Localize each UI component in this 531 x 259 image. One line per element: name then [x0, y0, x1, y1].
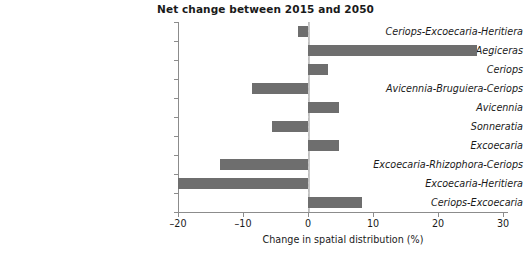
bar-row: Ceriops-Excoecaria	[0, 193, 531, 212]
y-tick	[174, 60, 179, 61]
bar-row: Excoecaria-Heritiera	[0, 174, 531, 193]
category-label: Sonneratia	[182, 117, 531, 136]
bar-row: Avicennia	[0, 98, 531, 117]
x-tick-label: 30	[483, 218, 523, 229]
bar-row: Ceriops	[0, 60, 531, 79]
x-tick-label: –10	[223, 218, 263, 229]
y-tick	[174, 155, 179, 156]
bar-row: Excoecaria	[0, 136, 531, 155]
x-axis-line	[178, 212, 508, 213]
y-tick	[174, 174, 179, 175]
bar-row: Phoenix-Xylocarpus-Aegiceras	[0, 41, 531, 60]
x-tick	[308, 212, 309, 217]
bar	[308, 140, 339, 151]
y-tick	[174, 98, 179, 99]
bar	[252, 83, 308, 94]
x-tick	[438, 212, 439, 217]
y-tick	[174, 193, 179, 194]
x-tick-label: 10	[353, 218, 393, 229]
x-tick-label: –20	[158, 218, 198, 229]
category-label: Avicennia-Bruguiera-Ceriops	[182, 79, 531, 98]
bar	[298, 26, 308, 37]
x-tick	[373, 212, 374, 217]
bar	[272, 121, 308, 132]
y-tick	[174, 79, 179, 80]
bar	[308, 102, 339, 113]
bar-row: Excoecaria-Rhizophora-Ceriops	[0, 155, 531, 174]
category-label: Ceriops-Excoecaria-Heritiera	[182, 22, 531, 41]
bar	[220, 159, 308, 170]
y-tick	[174, 41, 179, 42]
category-label: Avicennia	[182, 98, 531, 117]
chart-title: Net change between 2015 and 2050	[0, 3, 531, 15]
bar	[308, 64, 328, 75]
category-label: Excoecaria	[182, 136, 531, 155]
x-tick-label: 0	[288, 218, 328, 229]
bar-row: Avicennia-Bruguiera-Ceriops	[0, 79, 531, 98]
category-label: Ceriops	[182, 60, 531, 79]
bar-chart: Net change between 2015 and 2050 Ceriops…	[0, 0, 531, 259]
x-tick	[178, 212, 179, 217]
bar	[308, 45, 477, 56]
x-tick-label: 20	[418, 218, 458, 229]
y-tick	[174, 136, 179, 137]
bar-row: Ceriops-Excoecaria-Heritiera	[0, 22, 531, 41]
x-axis-title: Change in spatial distribution (%)	[178, 234, 508, 245]
y-tick	[174, 22, 179, 23]
bar	[178, 178, 308, 189]
x-tick	[243, 212, 244, 217]
bar	[308, 197, 362, 208]
x-tick	[503, 212, 504, 217]
y-tick	[174, 117, 179, 118]
bar-row: Sonneratia	[0, 117, 531, 136]
